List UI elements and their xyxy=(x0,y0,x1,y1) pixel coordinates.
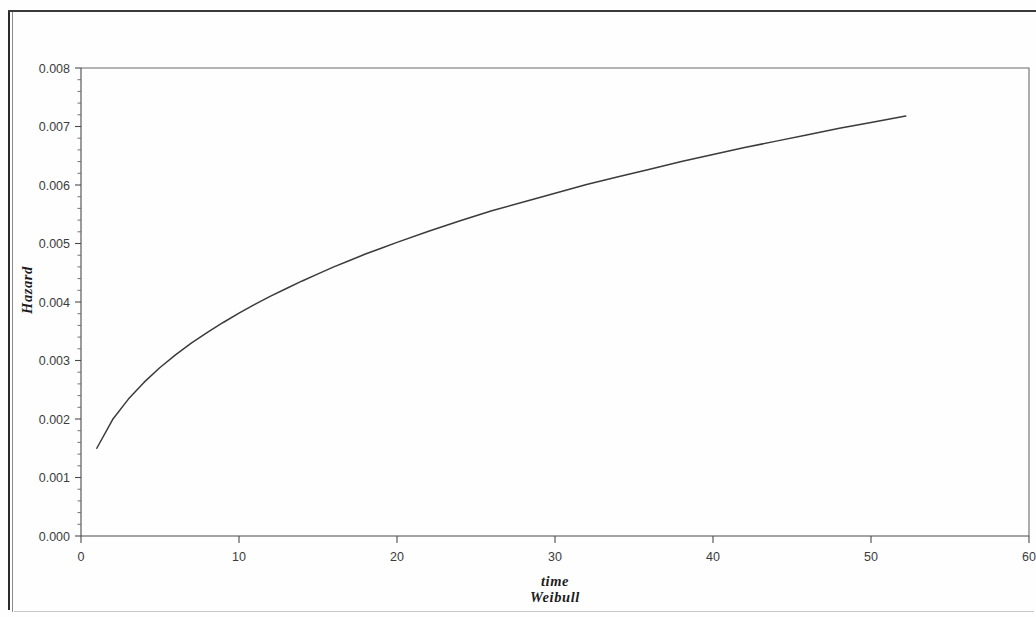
x-tick-label: 0 xyxy=(78,550,85,564)
y-tick-label: 0.003 xyxy=(39,354,70,368)
plot-frame xyxy=(81,68,1029,536)
chart-footnote-weibull: Weibull xyxy=(530,589,580,605)
x-axis-label: time xyxy=(541,573,569,589)
x-axis-major-ticks xyxy=(81,536,1029,543)
hazard-line-chart: 0.0000.0010.0020.0030.0040.0050.0060.007… xyxy=(0,0,1036,617)
x-tick-label: 50 xyxy=(864,550,878,564)
y-tick-label: 0.005 xyxy=(39,237,70,251)
x-tick-label: 30 xyxy=(548,550,562,564)
y-tick-label: 0.002 xyxy=(39,413,70,427)
y-axis-label: Hazard xyxy=(19,266,35,315)
y-tick-label: 0.004 xyxy=(39,296,70,310)
y-tick-label: 0.006 xyxy=(39,179,70,193)
chart-page: 0.0000.0010.0020.0030.0040.0050.0060.007… xyxy=(0,0,1036,617)
y-tick-label: 0.007 xyxy=(39,120,70,134)
y-tick-label: 0.008 xyxy=(39,62,70,76)
y-tick-label: 0.001 xyxy=(39,471,70,485)
x-tick-label: 40 xyxy=(706,550,720,564)
plot-area: 0.0000.0010.0020.0030.0040.0050.0060.007… xyxy=(0,0,1036,617)
x-tick-label: 60 xyxy=(1022,550,1036,564)
x-axis-tick-labels: 0102030405060 xyxy=(78,550,1036,564)
x-tick-label: 10 xyxy=(232,550,246,564)
y-axis-tick-labels: 0.0000.0010.0020.0030.0040.0050.0060.007… xyxy=(39,62,70,544)
data-series-weibull-hazard xyxy=(97,116,906,448)
x-tick-label: 20 xyxy=(390,550,404,564)
y-tick-label: 0.000 xyxy=(39,530,70,544)
